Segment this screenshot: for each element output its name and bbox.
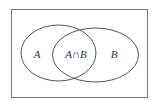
set-a-label: A bbox=[33, 48, 41, 60]
set-b-label: B bbox=[111, 48, 118, 60]
intersection-label: A∩B bbox=[64, 48, 87, 60]
venn-diagram: A A∩B B bbox=[0, 0, 159, 101]
